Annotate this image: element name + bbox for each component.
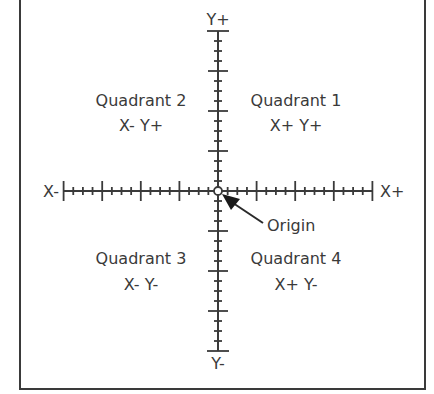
y-positive-label: Y+ — [205, 10, 229, 29]
x-positive-label: X+ — [380, 182, 404, 201]
coordinate-plane-diagram: Y+ Y- X- X+ Quadrant 1 X+ Y+ Quadrant 2 … — [0, 0, 434, 394]
origin-marker — [214, 187, 222, 195]
quadrant-3-title: Quadrant 3 — [96, 249, 187, 268]
quadrant-2-signs: X- Y+ — [119, 116, 163, 135]
quadrant-3-signs: X- Y- — [124, 275, 159, 294]
x-negative-label: X- — [43, 182, 59, 201]
quadrant-1-signs: X+ Y+ — [270, 116, 323, 135]
quadrant-4-title: Quadrant 4 — [251, 249, 342, 268]
quadrant-4-signs: X+ Y- — [274, 275, 317, 294]
origin-label: Origin — [267, 216, 315, 235]
quadrant-2-title: Quadrant 2 — [96, 91, 187, 110]
quadrant-1-title: Quadrant 1 — [251, 91, 342, 110]
y-negative-label: Y- — [210, 354, 225, 373]
